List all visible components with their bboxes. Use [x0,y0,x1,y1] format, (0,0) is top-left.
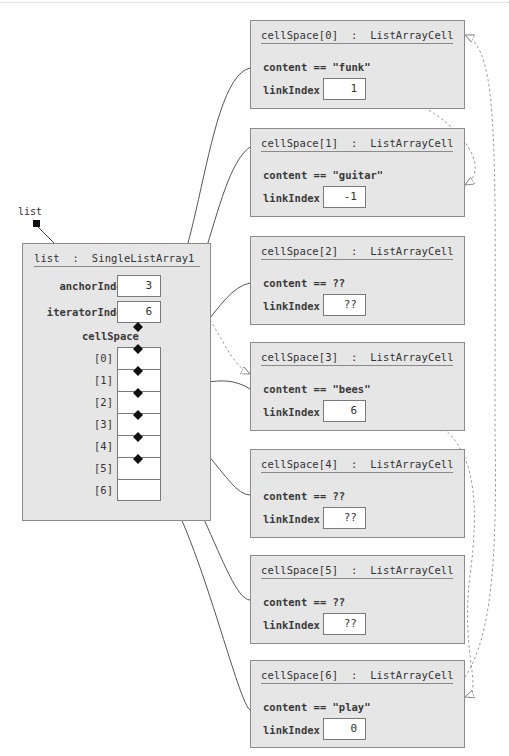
cell-object-0: cellSpace[0] : ListArrayCell content == … [250,20,465,109]
cell-object-2: cellSpace[2] : ListArrayCell content == … [250,236,465,325]
cell-object-3: cellSpace[3] : ListArrayCell content == … [250,342,465,431]
cell-title: cellSpace[3] : ListArrayCell [261,351,453,366]
cell-title: cellSpace[0] : ListArrayCell [261,29,453,44]
cell-content: content == ?? [263,490,345,502]
cell-content: content == ?? [263,277,345,289]
cell-content: content == "bees" [263,383,370,395]
list-reference-label: list [18,206,42,217]
list-reference-line [36,225,55,244]
link-index-label: linkIndex [263,724,320,736]
list-object-box: list : SingleListArray1 anchorIndex 3 it… [22,243,211,521]
slot-index-label: [1] [73,374,113,386]
iterator-index-value: 6 [117,301,161,323]
link-index-value: -1 [323,186,366,208]
slot-index-label: [6] [73,484,113,496]
slot-index-label: [2] [73,396,113,408]
cell-title: cellSpace[6] : ListArrayCell [261,669,453,684]
cell-object-5: cellSpace[5] : ListArrayCell content == … [250,555,465,644]
slot-index-label: [5] [73,462,113,474]
link-index-value: 0 [323,718,366,740]
anchor-index-value: 3 [117,275,161,297]
slot-5 [117,457,161,480]
cell-title: cellSpace[1] : ListArrayCell [261,137,453,152]
slot-3 [117,413,161,436]
cell-object-6: cellSpace[6] : ListArrayCell content == … [250,660,465,748]
link-index-label: linkIndex [263,192,320,204]
slot-1 [117,369,161,392]
slot-2 [117,391,161,414]
cell-content: content == ?? [263,596,345,608]
slot-index-label: [4] [73,440,113,452]
slot-0 [117,347,161,370]
slot-4 [117,435,161,458]
cell-title: cellSpace[4] : ListArrayCell [261,458,453,473]
link-index-label: linkIndex [263,619,320,631]
slot-index-label: [3] [73,418,113,430]
cellspace-label: cellSpace [82,330,139,342]
cell-content: content == "funk" [263,61,370,73]
cell-title: cellSpace[2] : ListArrayCell [261,245,453,260]
link-index-value: 6 [323,400,366,422]
link-index-label: linkIndex [263,406,320,418]
link-index-label: linkIndex [263,300,320,312]
cell-title: cellSpace[5] : ListArrayCell [261,564,453,579]
cell-content: content == "guitar" [263,169,383,181]
link-index-label: linkIndex [263,84,320,96]
link-index-value: ?? [323,294,366,316]
cell-content: content == "play" [263,701,370,713]
link-index-value: ?? [323,613,366,635]
cell-object-4: cellSpace[4] : ListArrayCell content == … [250,449,465,538]
link-index-value: 1 [323,78,366,100]
list-object-title: list : SingleListArray1 [34,252,200,267]
slot-index-label: [0] [73,352,113,364]
cell-object-1: cellSpace[1] : ListArrayCell content == … [250,128,465,217]
reference-square-icon [33,220,40,227]
slot-6 [117,479,161,501]
link-index-label: linkIndex [263,513,320,525]
link-index-value: ?? [323,507,366,529]
